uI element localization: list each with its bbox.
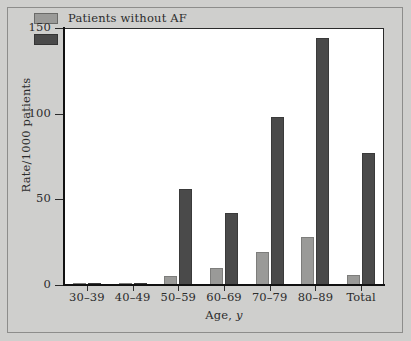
y-tick-100 [55, 114, 63, 115]
y-tick-label-50: 50 [36, 191, 51, 205]
bar-6069-series1 [225, 213, 238, 285]
figure-container: Patients without AF Patients with AF 050… [0, 0, 411, 341]
y-axis-line [63, 27, 65, 286]
bar-Total-series1 [362, 153, 375, 285]
y-tick-label-0: 0 [43, 277, 51, 291]
bar-7079-series1 [271, 117, 284, 285]
y-tick-0 [55, 285, 63, 286]
plot-area [64, 28, 384, 285]
y-tick-50 [55, 199, 63, 200]
x-axis-title-text: Age, [205, 308, 232, 322]
bar-5059-series1 [179, 189, 192, 285]
x-axis-title: Age, y [64, 308, 384, 322]
y-axis-title: Rate/1000 patients [19, 65, 33, 205]
legend-label-without-af: Patients without AF [68, 11, 187, 25]
bar-6069-series0 [210, 268, 223, 285]
legend-item-without-af: Patients without AF [34, 11, 187, 25]
y-tick-150 [55, 28, 63, 29]
bar-8089-series0 [301, 237, 314, 285]
x-tick-label-6: Total [331, 290, 391, 304]
x-axis-title-variable: y [236, 308, 243, 322]
bar-7079-series0 [256, 252, 269, 285]
y-tick-label-150: 150 [28, 20, 51, 34]
bar-8089-series1 [316, 38, 329, 285]
legend-swatch-with-af [34, 34, 58, 45]
